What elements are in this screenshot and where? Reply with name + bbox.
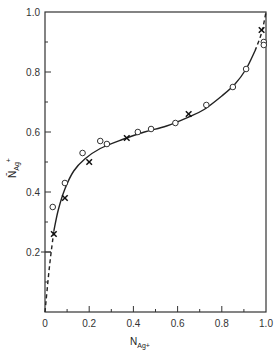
circle-marker xyxy=(173,120,179,126)
x-axis-label: NAg+ xyxy=(130,336,150,350)
data-markers xyxy=(50,27,267,237)
x-tick-label: 0 xyxy=(42,318,48,329)
cross-marker xyxy=(259,27,265,33)
y-tick-label: 0.8 xyxy=(26,67,40,78)
curve-solid xyxy=(54,51,255,231)
x-tick-label: 0.8 xyxy=(215,318,229,329)
y-tick-label: 0.4 xyxy=(26,187,40,198)
y-axis-label: N̄Ag+ xyxy=(5,158,21,178)
circle-marker xyxy=(80,150,86,156)
axis-ticks: 00.20.40.60.81.00.20.40.60.81.0 xyxy=(26,7,273,330)
svg-text:N̄Ag+: N̄Ag+ xyxy=(5,158,21,178)
chart: 00.20.40.60.81.00.20.40.60.81.0 NAg+ N̄A… xyxy=(0,0,277,353)
circle-marker xyxy=(230,84,236,90)
circle-marker xyxy=(97,138,103,144)
curve-dashed-low xyxy=(45,231,54,312)
circle-marker xyxy=(135,129,141,135)
y-tick-label: 0.6 xyxy=(26,127,40,138)
circle-marker xyxy=(62,180,68,186)
fitted-curve xyxy=(45,12,266,312)
x-tick-label: 0.6 xyxy=(171,318,185,329)
circle-marker xyxy=(50,204,56,210)
cross-marker xyxy=(86,159,92,165)
cross-marker xyxy=(62,195,68,201)
x-tick-label: 0.4 xyxy=(126,318,140,329)
y-tick-label: 0.2 xyxy=(26,247,40,258)
cross-marker xyxy=(186,111,192,117)
circle-marker xyxy=(204,102,210,108)
circle-marker xyxy=(261,42,267,48)
x-tick-label: 1.0 xyxy=(259,318,273,329)
circle-marker xyxy=(243,66,249,72)
x-tick-label: 0.2 xyxy=(82,318,96,329)
circle-marker xyxy=(148,126,154,132)
circle-marker xyxy=(104,141,110,147)
y-tick-label: 1.0 xyxy=(26,7,40,18)
plot-frame xyxy=(45,12,266,312)
